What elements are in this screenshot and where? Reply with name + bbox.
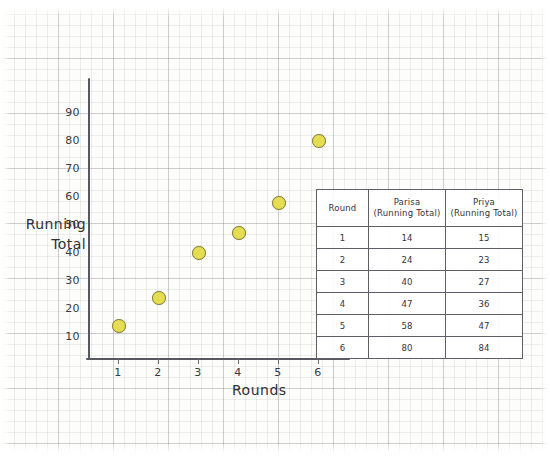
cell-priya-4: 36 xyxy=(446,293,523,315)
cell-parisa-3: 40 xyxy=(369,271,446,293)
data-point-round-5[interactable] xyxy=(272,196,286,210)
y-tick-20: 20 xyxy=(54,302,80,315)
table-row: 5 58 47 xyxy=(317,315,523,337)
cell-round-3: 3 xyxy=(317,271,369,293)
cell-priya-3: 27 xyxy=(446,271,523,293)
cell-parisa-2: 24 xyxy=(369,249,446,271)
data-point-round-4[interactable] xyxy=(232,226,246,240)
x-tick-mark-4 xyxy=(238,358,239,364)
paper-edge-left xyxy=(0,0,10,457)
cell-parisa-1: 14 xyxy=(369,227,446,249)
data-point-round-2[interactable] xyxy=(152,291,166,305)
scan-artifact xyxy=(42,0,182,5)
cell-round-4: 4 xyxy=(317,293,369,315)
x-tick-mark-3 xyxy=(198,358,199,364)
cell-parisa-4: 47 xyxy=(369,293,446,315)
paper-edge-right xyxy=(540,0,550,457)
paper-edge-bottom xyxy=(0,443,550,457)
table-header-priya: Priya (Running Total) xyxy=(446,190,523,227)
y-axis-title-line1: Running xyxy=(14,214,86,234)
table-header-priya-name: Priya xyxy=(446,197,522,208)
graph-paper-worksheet: 90 80 70 60 50 40 30 20 10 1 2 3 4 5 6 R… xyxy=(0,0,550,457)
table-header-parisa: Parisa (Running Total) xyxy=(369,190,446,227)
table-row: 1 14 15 xyxy=(317,227,523,249)
data-point-round-6[interactable] xyxy=(312,134,326,148)
cell-parisa-6: 80 xyxy=(369,337,446,359)
running-total-table: Round Parisa (Running Total) Priya (Runn… xyxy=(316,189,523,359)
y-axis-title: Running Total xyxy=(14,214,86,254)
cell-round-6: 6 xyxy=(317,337,369,359)
cell-priya-2: 23 xyxy=(446,249,523,271)
x-tick-mark-5 xyxy=(278,358,279,364)
x-tick-mark-1 xyxy=(118,358,119,364)
y-tick-90: 90 xyxy=(54,106,80,119)
cell-priya-5: 47 xyxy=(446,315,523,337)
y-axis-title-line2: Total xyxy=(14,234,86,254)
table-header-row: Round Parisa (Running Total) Priya (Runn… xyxy=(317,190,523,227)
y-tick-10: 10 xyxy=(54,330,80,343)
x-tick-2: 2 xyxy=(148,366,168,379)
y-tick-30: 30 xyxy=(54,274,80,287)
x-axis-title: Rounds xyxy=(232,382,287,398)
data-point-round-1[interactable] xyxy=(112,319,126,333)
table-header-parisa-sub: (Running Total) xyxy=(369,208,445,219)
x-tick-1: 1 xyxy=(108,366,128,379)
table-header-round: Round xyxy=(317,190,369,227)
cell-priya-1: 15 xyxy=(446,227,523,249)
cell-priya-6: 84 xyxy=(446,337,523,359)
x-tick-3: 3 xyxy=(188,366,208,379)
x-tick-4: 4 xyxy=(228,366,248,379)
table-row: 6 80 84 xyxy=(317,337,523,359)
table-header-priya-sub: (Running Total) xyxy=(446,208,522,219)
table-row: 4 47 36 xyxy=(317,293,523,315)
cell-parisa-5: 58 xyxy=(369,315,446,337)
data-point-round-3[interactable] xyxy=(192,246,206,260)
table-row: 2 24 23 xyxy=(317,249,523,271)
cell-round-1: 1 xyxy=(317,227,369,249)
y-tick-80: 80 xyxy=(54,134,80,147)
y-tick-60: 60 xyxy=(54,190,80,203)
y-tick-70: 70 xyxy=(54,162,80,175)
cell-round-5: 5 xyxy=(317,315,369,337)
y-axis-line xyxy=(88,78,90,360)
x-tick-mark-2 xyxy=(158,358,159,364)
x-tick-5: 5 xyxy=(268,366,288,379)
cell-round-2: 2 xyxy=(317,249,369,271)
table-header-parisa-name: Parisa xyxy=(369,197,445,208)
x-tick-6: 6 xyxy=(308,366,328,379)
table-row: 3 40 27 xyxy=(317,271,523,293)
x-axis-line xyxy=(86,358,350,360)
